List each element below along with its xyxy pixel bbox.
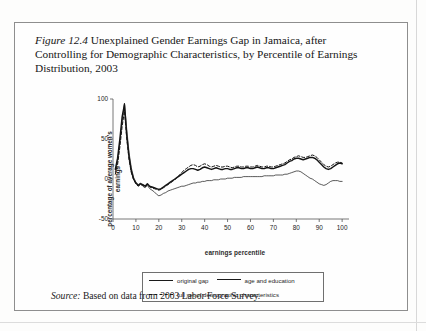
page-canvas: Figure 12.4 Unexplained Gender Earnings … bbox=[0, 0, 426, 331]
legend-label-age-and-education: age and education bbox=[245, 277, 295, 284]
source-text: Based on data from 2003 Labor Force Surv… bbox=[80, 290, 260, 301]
page-bottom-edge bbox=[0, 322, 426, 323]
legend-item-original-gap: original gap bbox=[149, 277, 209, 284]
legend-row-top: original gap age and education bbox=[143, 273, 323, 287]
svg-text:0: 0 bbox=[104, 175, 108, 182]
source-label: Source: bbox=[51, 290, 80, 301]
svg-text:100: 100 bbox=[97, 95, 108, 102]
svg-text:10: 10 bbox=[132, 224, 140, 231]
figure-title: Figure 12.4 Unexplained Gender Earnings … bbox=[35, 33, 375, 76]
svg-text:-50: -50 bbox=[99, 215, 109, 222]
source-note: Source: Based on data from 2003 Labor Fo… bbox=[51, 290, 260, 301]
svg-text:20: 20 bbox=[155, 224, 163, 231]
line-chart-svg: -500501000102030405060708090100 bbox=[85, 95, 355, 245]
legend-item-age-and-education: age and education bbox=[217, 277, 295, 284]
figure-box: Figure 12.4 Unexplained Gender Earnings … bbox=[14, 22, 408, 311]
svg-text:100: 100 bbox=[337, 224, 348, 231]
page-right-edge bbox=[416, 0, 417, 331]
plot-area: -500501000102030405060708090100 bbox=[85, 95, 355, 245]
legend-label-original-gap: original gap bbox=[177, 277, 209, 284]
svg-text:40: 40 bbox=[201, 224, 209, 231]
svg-text:60: 60 bbox=[247, 224, 255, 231]
svg-text:0: 0 bbox=[111, 224, 115, 231]
legend-swatch-solid-thin-icon bbox=[149, 278, 173, 282]
x-axis-title: earnings percentile bbox=[135, 249, 335, 256]
svg-text:70: 70 bbox=[270, 224, 278, 231]
figure-number: Figure 12.4 bbox=[35, 34, 88, 46]
legend-swatch-solid-thick-icon bbox=[217, 278, 241, 282]
series-line-original-gap bbox=[115, 103, 342, 196]
data-series bbox=[115, 103, 342, 196]
axes: -500501000102030405060708090100 bbox=[97, 95, 349, 231]
svg-text:90: 90 bbox=[316, 224, 324, 231]
svg-text:50: 50 bbox=[101, 135, 109, 142]
svg-text:50: 50 bbox=[224, 224, 232, 231]
svg-text:80: 80 bbox=[293, 224, 301, 231]
svg-text:30: 30 bbox=[178, 224, 186, 231]
